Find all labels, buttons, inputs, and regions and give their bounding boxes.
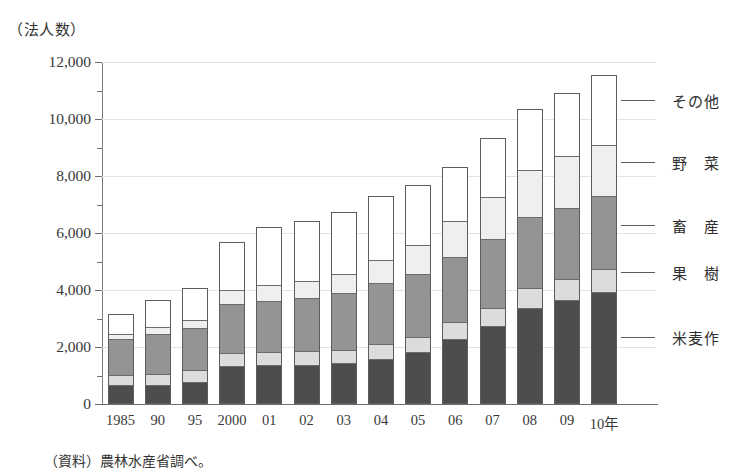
- bar-segment-vegetable: [146, 328, 170, 335]
- bar-segment-fruit: [220, 354, 244, 368]
- y-axis-label: 4,000: [56, 281, 91, 299]
- legend-leader-line: [621, 225, 655, 226]
- bar-segment-vegetable: [183, 321, 207, 329]
- bar-segment-fruit: [257, 353, 281, 366]
- bar-column[interactable]: [442, 167, 468, 404]
- bar-segment-vegetable: [332, 275, 356, 294]
- x-axis-label: 01: [262, 412, 277, 429]
- y-axis-label: 10,000: [48, 110, 91, 128]
- bar-segment-livestock: [109, 340, 133, 377]
- x-axis-label: 1985: [106, 412, 135, 429]
- x-axis-label: 05: [411, 412, 426, 429]
- bar-segment-livestock: [406, 275, 430, 338]
- y-axis-tick-major: [95, 119, 102, 120]
- bar-segment-other: [443, 168, 467, 222]
- x-axis-label: 10年: [590, 412, 619, 433]
- x-axis-label: 90: [150, 412, 165, 429]
- bar-segment-rice: [295, 366, 319, 403]
- bar-segment-rice: [183, 383, 207, 403]
- y-axis-tick-major: [95, 233, 102, 234]
- bar-segment-rice: [369, 360, 393, 403]
- bar-segment-other: [257, 228, 281, 286]
- x-axis-label: 09: [560, 412, 575, 429]
- y-axis-label: 0: [83, 395, 91, 413]
- y-axis-tick-major: [95, 176, 102, 177]
- bar-column[interactable]: [517, 109, 543, 404]
- bar-segment-fruit: [332, 351, 356, 365]
- bar-column[interactable]: [256, 227, 282, 404]
- bar-segment-livestock: [332, 294, 356, 350]
- bar-segment-vegetable: [295, 282, 319, 299]
- bar-segment-vegetable: [443, 222, 467, 258]
- y-axis-tick-major: [95, 347, 102, 348]
- y-axis-label: 2,000: [56, 338, 91, 356]
- bar-segment-fruit: [369, 345, 393, 359]
- y-axis-label: 8,000: [56, 167, 91, 185]
- legend-item-rice[interactable]: 米麦作: [672, 327, 720, 348]
- bar-segment-livestock: [443, 258, 467, 324]
- bar-segment-livestock: [592, 197, 616, 270]
- bar-segment-other: [332, 213, 356, 276]
- legend-leader-line: [621, 337, 655, 338]
- x-axis-label: 2000: [218, 412, 247, 429]
- bar-segment-other: [555, 94, 579, 157]
- bar-column[interactable]: [591, 75, 617, 404]
- legend-item-fruit[interactable]: 果 樹: [672, 262, 720, 283]
- y-axis-tick-minor: [97, 319, 102, 320]
- bar-segment-other: [146, 301, 170, 328]
- bar-segment-livestock: [369, 284, 393, 346]
- bar-segment-fruit: [146, 375, 170, 386]
- source-note: （資料）農林水産省調べ。: [44, 450, 212, 470]
- bar-segment-vegetable: [518, 171, 542, 219]
- y-axis-tick-minor: [97, 205, 102, 206]
- bar-column[interactable]: [554, 93, 580, 404]
- legend-item-other[interactable]: その他: [672, 90, 720, 111]
- bar-segment-other: [481, 139, 505, 198]
- x-axis-label: 07: [485, 412, 500, 429]
- bar-column[interactable]: [182, 288, 208, 404]
- bar-segment-other: [109, 315, 133, 335]
- bar-segment-fruit: [295, 352, 319, 365]
- bar-segment-vegetable: [481, 198, 505, 240]
- y-axis-tick-minor: [97, 262, 102, 263]
- x-axis-line: [102, 404, 658, 405]
- bar-column[interactable]: [108, 314, 134, 404]
- x-axis-label: 02: [299, 412, 314, 429]
- bar-column[interactable]: [219, 242, 245, 404]
- y-axis-tick-minor: [97, 376, 102, 377]
- bar-segment-rice: [146, 386, 170, 403]
- bar-segment-rice: [332, 364, 356, 403]
- bar-segment-livestock: [220, 305, 244, 354]
- bar-column[interactable]: [368, 196, 394, 404]
- bar-segment-fruit: [592, 270, 616, 292]
- bar-column[interactable]: [145, 300, 171, 404]
- bar-segment-rice: [555, 301, 579, 404]
- y-axis-tick-major: [95, 290, 102, 291]
- bar-segment-fruit: [443, 323, 467, 340]
- y-axis-tick-minor: [97, 91, 102, 92]
- bar-column[interactable]: [331, 212, 357, 404]
- plot-area: 12,00010,0008,0006,0004,0002,0000: [102, 62, 656, 404]
- y-axis-unit-caption: （法人数）: [8, 18, 86, 39]
- bar-segment-fruit: [109, 376, 133, 386]
- bar-segment-other: [518, 110, 542, 171]
- bar-segment-livestock: [555, 209, 579, 280]
- bar-column[interactable]: [480, 138, 506, 404]
- legend-item-vegetable[interactable]: 野 菜: [672, 152, 720, 173]
- bar-column[interactable]: [405, 185, 431, 404]
- bar-segment-vegetable: [369, 261, 393, 284]
- x-axis-label: 08: [522, 412, 537, 429]
- bar-segment-rice: [257, 366, 281, 403]
- y-axis-tick-major: [95, 62, 102, 63]
- legend-item-livestock[interactable]: 畜 産: [672, 215, 720, 236]
- bar-segment-other: [592, 76, 616, 146]
- y-axis-label: 12,000: [48, 53, 91, 71]
- bar-segment-other: [220, 243, 244, 291]
- bar-segment-rice: [406, 353, 430, 403]
- bar-column[interactable]: [294, 221, 320, 404]
- bar-segment-fruit: [555, 280, 579, 301]
- bar-segment-fruit: [183, 371, 207, 382]
- bar-segment-rice: [443, 340, 467, 403]
- bar-segment-livestock: [481, 240, 505, 309]
- bar-segment-rice: [481, 327, 505, 403]
